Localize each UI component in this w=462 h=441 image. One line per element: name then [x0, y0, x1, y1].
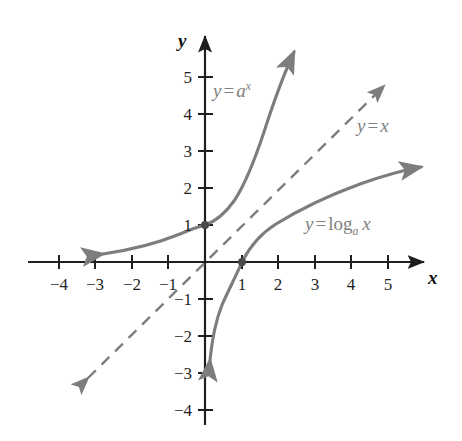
label-logarithm-curve: y=logax: [305, 214, 371, 233]
y-tick-label--1: −1: [162, 291, 192, 308]
label-identity-op: =: [365, 115, 380, 136]
y-tick-label-4: 4: [168, 106, 192, 123]
label-exponential-op: =: [221, 80, 236, 101]
label-exponential-exponent: x: [246, 80, 251, 93]
label-exponential-base: a: [236, 80, 246, 101]
label-identity-rhs: x: [380, 115, 388, 136]
label-logarithm-op: =: [313, 213, 328, 234]
label-logarithm-arg: x: [358, 213, 370, 234]
label-exponential-curve: y=ax: [213, 81, 251, 100]
x-tick-label--4: −4: [45, 276, 73, 293]
x-axis-label: x: [428, 268, 438, 287]
x-tick-label-4: 4: [341, 276, 361, 293]
point-y-intercept: [201, 221, 209, 229]
x-tick-label-1: 1: [232, 276, 252, 293]
y-axis-label: y: [178, 31, 186, 50]
x-tick-label--3: −3: [81, 276, 109, 293]
x-tick-label-3: 3: [305, 276, 325, 293]
figure-container: −4 −3 −2 −1 1 2 3 4 5 5 4 3 2 1 −1 −2 −3…: [0, 0, 462, 441]
y-tick-label-1: 1: [168, 217, 192, 234]
y-tick-label-5: 5: [168, 69, 192, 86]
x-tick-label--2: −2: [118, 276, 146, 293]
y-tick-label--4: −4: [162, 402, 192, 419]
label-identity-line: y=x: [357, 116, 389, 135]
graph-canvas: [0, 0, 462, 441]
curve-exponential: [103, 52, 294, 254]
label-logarithm-fn: log: [328, 213, 352, 234]
y-tick-label--3: −3: [162, 365, 192, 382]
y-tick-label-2: 2: [168, 180, 192, 197]
y-tick-label--2: −2: [162, 328, 192, 345]
point-x-intercept: [238, 258, 246, 266]
x-tick-label-2: 2: [268, 276, 288, 293]
y-tick-label-3: 3: [168, 143, 192, 160]
x-tick-label-5: 5: [378, 276, 398, 293]
